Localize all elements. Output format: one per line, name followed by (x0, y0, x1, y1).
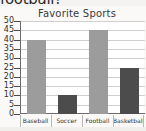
footer-strip (0, 127, 146, 131)
x-axis-separator (20, 115, 21, 127)
x-axis-label-baseball: Baseball (20, 115, 51, 127)
x-axis-separator (113, 115, 114, 127)
x-axis-label-basketball: Basketball (113, 115, 144, 127)
gridline (21, 21, 145, 22)
x-axis-label-football: Football (82, 115, 113, 127)
y-axis-tick (14, 86, 20, 87)
bar-chart-card: Favorite Sports 05101520253035404550 Bas… (0, 6, 146, 131)
y-axis-tick (14, 49, 20, 50)
x-axis-separator (82, 115, 83, 127)
bar-football (89, 30, 108, 114)
bar-baseball (27, 40, 46, 114)
y-axis-tick-label: 10 (0, 91, 14, 99)
y-axis-tick (14, 40, 20, 41)
y-axis-tick (14, 30, 20, 31)
y-axis-tick (14, 21, 20, 22)
y-axis-tick (14, 77, 20, 78)
y-axis-tick-label: 35 (0, 45, 14, 53)
chart-title: Favorite Sports (22, 7, 132, 20)
y-axis-tick-label: 15 (0, 82, 14, 90)
bar-basketball (120, 68, 139, 115)
y-axis-tick (14, 105, 20, 106)
y-axis-tick (14, 58, 20, 59)
x-axis-labels: BaseballSoccerFootballBasketball (20, 115, 144, 127)
y-axis-tick-label: 0 (0, 110, 14, 118)
y-axis-tick (14, 95, 20, 96)
y-axis-tick-label: 30 (0, 54, 14, 62)
gridline (21, 30, 145, 31)
y-axis-tick-label: 50 (0, 17, 14, 25)
x-axis-separator (143, 115, 144, 127)
y-axis-tick-label: 5 (0, 101, 14, 109)
y-axis-tick-label: 25 (0, 64, 14, 72)
x-axis-label-soccer: Soccer (51, 115, 82, 127)
chart-screenshot: football? Favorite Sports 05101520253035… (0, 0, 146, 131)
y-axis-tick-label: 40 (0, 36, 14, 44)
y-axis-tick (14, 68, 20, 69)
y-axis-tick-label: 20 (0, 73, 14, 81)
bar-soccer (58, 95, 77, 114)
y-axis-tick-label: 45 (0, 26, 14, 34)
x-axis-separator (51, 115, 52, 127)
plot-area (20, 21, 144, 114)
